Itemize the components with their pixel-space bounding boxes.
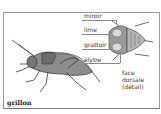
leader-elytre xyxy=(82,63,120,64)
leader-elytre-rise xyxy=(120,52,121,63)
label-grattoir: grattoir xyxy=(84,41,106,48)
detail-caption-line-2: dorsale xyxy=(122,76,144,83)
label-lime: lime xyxy=(84,26,97,33)
leader-miroir-drop xyxy=(116,20,117,24)
diagram-title: grillon xyxy=(7,99,31,107)
label-elytre: élytre xyxy=(84,56,101,63)
leader-lime xyxy=(82,34,110,35)
leader-grattoir xyxy=(82,49,112,50)
detail-caption: face dorsale (détail) xyxy=(122,69,144,90)
label-miroir: miroir xyxy=(84,12,102,19)
leader-miroir xyxy=(82,20,116,21)
dorsal-detail-illustration xyxy=(105,16,155,64)
detail-caption-line-1: face xyxy=(122,69,144,76)
detail-caption-line-3: (détail) xyxy=(122,83,144,90)
